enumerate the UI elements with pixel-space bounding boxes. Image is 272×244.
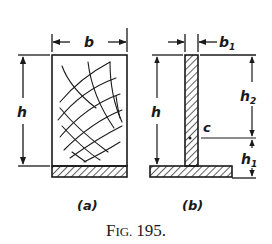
height-label-h: h: [17, 104, 27, 120]
upper-height-subscript: 2: [250, 96, 256, 106]
diagram-a: b h: [17, 28, 127, 213]
lower-height-label: h1: [241, 151, 257, 169]
diagram-b: b1 h c h2 h1: [150, 34, 257, 213]
centroid-label-c: c: [203, 120, 211, 135]
base-strip: [52, 166, 127, 177]
web-flange-joint: [186, 164, 197, 167]
flange: [150, 166, 232, 177]
caption-number: 195.: [136, 221, 166, 240]
web-width-b: b: [219, 34, 229, 50]
web-width-label: b1: [219, 34, 235, 52]
caption-initial: F: [106, 221, 115, 240]
sublabel-a: (a): [77, 198, 98, 213]
upper-height-label: h2: [240, 88, 256, 106]
height-label-h: h: [151, 104, 161, 120]
lower-height-h: h: [241, 151, 251, 167]
web-width-subscript: 1: [229, 42, 235, 52]
width-label-b: b: [84, 34, 94, 50]
figure-caption: FIG.195.: [106, 221, 166, 240]
web-width-dimension-b1: [168, 34, 217, 52]
upper-height-h: h: [240, 88, 250, 104]
crosshatch-grid: [58, 62, 122, 162]
lower-height-subscript: 1: [251, 159, 257, 169]
centroid-dot: [189, 137, 192, 140]
sublabel-b: (b): [182, 198, 203, 213]
web: [185, 55, 198, 166]
figure-195: b h: [0, 0, 272, 244]
caption-smallcaps: IG.: [115, 224, 132, 239]
